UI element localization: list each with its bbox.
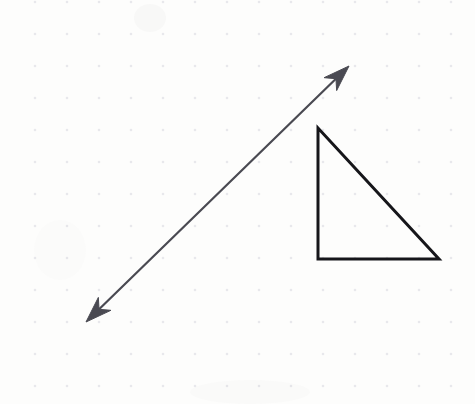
grid-dot — [194, 161, 197, 164]
grid-dot — [450, 33, 453, 36]
grid-dot — [130, 321, 133, 324]
grid-dot — [258, 97, 261, 100]
grid-dot — [386, 353, 389, 356]
grid-dot — [290, 129, 293, 132]
grid-dot — [322, 65, 325, 68]
grid-dot — [450, 65, 453, 68]
grid-dot — [34, 353, 37, 356]
grid-dot — [194, 321, 197, 324]
grid-dot — [130, 225, 133, 228]
grid-dot — [226, 321, 229, 324]
grid-dot — [322, 161, 325, 164]
grid-dot — [322, 225, 325, 228]
grid-dot — [386, 33, 389, 36]
grid-dot — [98, 97, 101, 100]
grid-dot — [418, 161, 421, 164]
grid-dot — [290, 353, 293, 356]
grid-dot — [226, 289, 229, 292]
grid-dot — [130, 193, 133, 196]
grid-dot — [66, 129, 69, 132]
grid-dot — [322, 1, 325, 4]
grid-dot — [354, 193, 357, 196]
grid-dot — [98, 353, 101, 356]
grid-dot — [354, 353, 357, 356]
grid-dot — [162, 129, 165, 132]
grid-dot — [354, 385, 357, 388]
grid-dot — [386, 97, 389, 100]
grid-dot — [450, 97, 453, 100]
grid-dot — [34, 97, 37, 100]
grid-dot — [98, 161, 101, 164]
grid-dot — [322, 321, 325, 324]
grid-dot — [322, 193, 325, 196]
grid-dot — [66, 289, 69, 292]
grid-dot — [162, 65, 165, 68]
grid-dot — [258, 161, 261, 164]
grid-dot — [162, 289, 165, 292]
grid-dot — [98, 225, 101, 228]
grid-dot — [418, 385, 421, 388]
grid-dot — [354, 65, 357, 68]
grid-dot — [226, 161, 229, 164]
grid-dot — [162, 353, 165, 356]
grid-dot — [98, 257, 101, 260]
grid-dot — [450, 129, 453, 132]
grid-dot — [450, 321, 453, 324]
grid-dot — [258, 289, 261, 292]
grid-dot — [34, 33, 37, 36]
grid-dot — [322, 97, 325, 100]
grid-dot — [98, 33, 101, 36]
grid-dot — [386, 289, 389, 292]
grid-dot — [258, 225, 261, 228]
grid-dot — [354, 33, 357, 36]
grid-dot — [130, 33, 133, 36]
grid-dot — [226, 353, 229, 356]
grid-dot — [290, 225, 293, 228]
grid-dot — [290, 33, 293, 36]
grid-dot — [354, 161, 357, 164]
grid-dot — [226, 1, 229, 4]
grid-dot — [98, 289, 101, 292]
grid-dot — [66, 385, 69, 388]
grid-dot — [66, 1, 69, 4]
grid-dot — [194, 129, 197, 132]
grid-dot — [354, 321, 357, 324]
grid-dot — [418, 353, 421, 356]
grid-dot — [290, 97, 293, 100]
grid-dot — [354, 97, 357, 100]
grid-dot — [130, 353, 133, 356]
grid-dot — [226, 97, 229, 100]
grid-dot — [354, 225, 357, 228]
grid-dot — [194, 65, 197, 68]
paper-background — [0, 0, 475, 404]
grid-dot — [130, 129, 133, 132]
grid-dot — [290, 257, 293, 260]
grid-dot — [194, 257, 197, 260]
grid-dot — [386, 129, 389, 132]
grid-dot — [354, 1, 357, 4]
grid-dot — [162, 193, 165, 196]
grid-dot — [194, 353, 197, 356]
grid-dot — [226, 193, 229, 196]
grid-dot — [130, 289, 133, 292]
grid-dot — [322, 353, 325, 356]
grid-dot — [34, 225, 37, 228]
grid-dot — [386, 225, 389, 228]
grid-dot — [194, 289, 197, 292]
grid-dot — [322, 33, 325, 36]
grid-dot — [98, 65, 101, 68]
grid-dot — [450, 161, 453, 164]
grid-dot — [162, 257, 165, 260]
paper-smudge-bottom — [190, 380, 310, 404]
grid-dot — [34, 289, 37, 292]
geometry-drawing — [0, 0, 475, 404]
grid-dot — [130, 65, 133, 68]
grid-dot — [290, 1, 293, 4]
grid-dot — [258, 129, 261, 132]
grid-dot — [130, 161, 133, 164]
grid-dot — [66, 353, 69, 356]
grid-dot — [66, 193, 69, 196]
grid-dot — [162, 385, 165, 388]
paper-smudge-left — [34, 220, 86, 280]
grid-dot — [418, 33, 421, 36]
